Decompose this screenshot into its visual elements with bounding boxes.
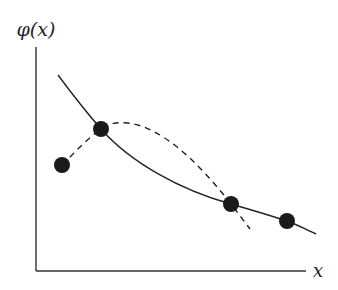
data-point — [54, 157, 70, 173]
data-point — [223, 196, 239, 212]
data-point — [93, 121, 109, 137]
solid-curve — [58, 75, 316, 234]
diagram-canvas: φ(x) x — [0, 0, 338, 290]
dashed-curve — [62, 123, 250, 229]
y-axis-label: φ(x) — [17, 18, 56, 40]
data-point — [279, 213, 295, 229]
x-axis-label: x — [313, 260, 323, 281]
